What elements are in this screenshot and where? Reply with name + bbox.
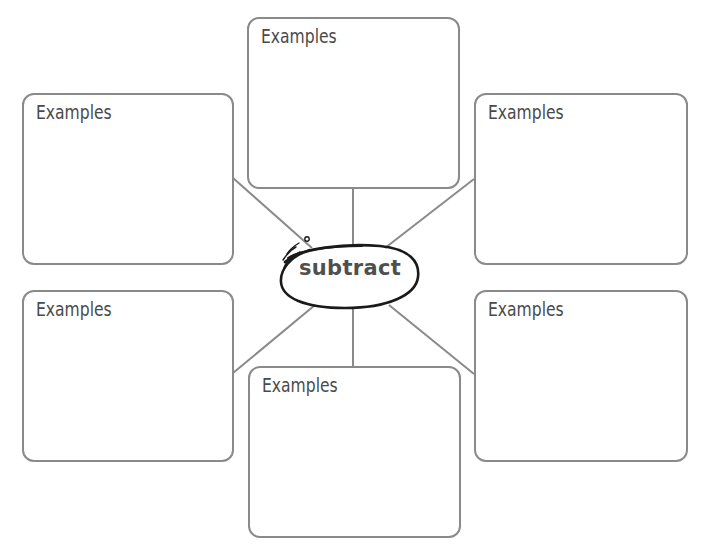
center-word: subtract	[280, 256, 420, 280]
